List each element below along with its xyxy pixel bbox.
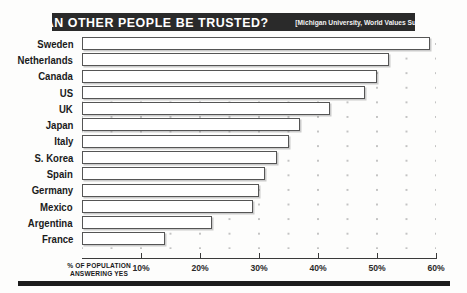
x-axis-tick-label: 50% [368, 263, 385, 273]
bar-us [82, 86, 365, 99]
bar-germany [82, 184, 259, 197]
category-label-row: Netherlands [0, 53, 78, 68]
category-label: UK [59, 104, 73, 115]
x-axis-caption-line2: ANSWERING YES [55, 270, 143, 278]
category-label: Spain [47, 169, 73, 180]
category-label: Germany [31, 185, 73, 196]
bar-japan [82, 118, 300, 131]
category-label-row: Argentina [0, 216, 78, 231]
category-label: France [42, 234, 73, 245]
bar-sweden [82, 37, 430, 50]
x-axis-tick [318, 253, 319, 259]
category-label-row: Sweden [0, 37, 78, 52]
bar-row [82, 135, 436, 150]
bar-row [82, 118, 436, 133]
category-label-row: Italy [0, 135, 78, 150]
category-label-row: UK [0, 102, 78, 117]
category-label: Italy [54, 136, 73, 147]
category-label-row: Canada [0, 70, 78, 85]
x-axis-tick-label: 40% [309, 263, 326, 273]
bottom-rule [18, 281, 450, 286]
category-label: Sweden [37, 39, 73, 50]
category-label: Argentina [28, 218, 73, 229]
bar-row [82, 53, 436, 68]
category-label: Mexico [41, 202, 73, 213]
x-axis-tick [436, 253, 437, 259]
x-axis-tick-label: 30% [250, 263, 267, 273]
category-label: US [60, 88, 73, 99]
bar-row [82, 70, 436, 85]
bar-row [82, 232, 436, 247]
x-axis-tick [141, 253, 142, 259]
bar-italy [82, 135, 289, 148]
category-label-row: Spain [0, 167, 78, 182]
bar-row [82, 86, 436, 101]
bar-row [82, 216, 436, 231]
bar-s-korea [82, 151, 277, 164]
x-axis-caption-line1: % OF POPULATION [55, 262, 143, 270]
category-label-row: Japan [0, 118, 78, 133]
category-label-row: Mexico [0, 200, 78, 215]
category-label-row: Germany [0, 184, 78, 199]
plot-area [82, 37, 436, 249]
category-label: Japan [45, 120, 73, 131]
category-label: Canada [38, 71, 73, 82]
bar-canada [82, 70, 377, 83]
x-axis-tick-label: 60% [427, 263, 444, 273]
category-label: S. Korea [34, 153, 73, 164]
page-title: CAN OTHER PEOPLE BE TRUSTED? [52, 15, 269, 30]
bar-row [82, 167, 436, 182]
x-axis-tick-label: 20% [191, 263, 208, 273]
category-label-row: France [0, 232, 78, 247]
x-axis-tick [377, 253, 378, 259]
category-label-row: S. Korea [0, 151, 78, 166]
bar-mexico [82, 200, 253, 213]
bar-argentina [82, 216, 212, 229]
bar-row [82, 37, 436, 52]
bar-row [82, 200, 436, 215]
bar-netherlands [82, 53, 389, 66]
bar-france [82, 232, 165, 245]
bar-uk [82, 102, 330, 115]
bar-rows [82, 37, 436, 249]
chart-source-label: [Michigan University, World Values Surve… [296, 18, 415, 27]
chart-title-bar: CAN OTHER PEOPLE BE TRUSTED? [Michigan U… [52, 13, 415, 31]
chart-container: CAN OTHER PEOPLE BE TRUSTED? [Michigan U… [0, 0, 467, 293]
x-axis-caption: % OF POPULATION ANSWERING YES [55, 262, 143, 278]
x-axis-tick [259, 253, 260, 259]
x-axis-tick [200, 253, 201, 259]
bar-row [82, 151, 436, 166]
bar-row [82, 102, 436, 117]
category-axis-labels: SwedenNetherlandsCanadaUSUKJapanItalyS. … [0, 37, 78, 249]
bar-spain [82, 167, 265, 180]
category-label: Netherlands [18, 55, 73, 66]
category-label-row: US [0, 86, 78, 101]
bar-row [82, 184, 436, 199]
